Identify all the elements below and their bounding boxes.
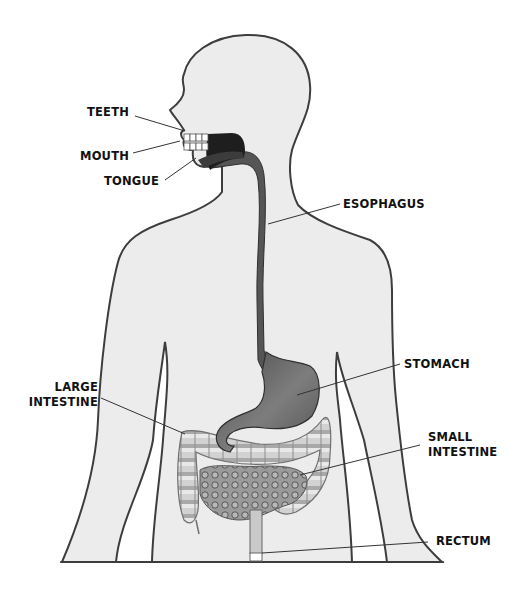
label-small-intestine-line2: INTESTINE (428, 445, 497, 460)
label-stomach: STOMACH (404, 357, 470, 372)
label-rectum: RECTUM (436, 534, 491, 549)
leader-mouth (133, 141, 180, 153)
anus (250, 553, 262, 561)
digestive-system-diagram (0, 0, 529, 589)
label-large-intestine-line2: INTESTINE (26, 395, 98, 410)
label-teeth: TEETH (87, 105, 129, 120)
rectum (250, 510, 262, 554)
label-small-intestine: SMALL INTESTINE (428, 430, 497, 460)
leader-tongue (165, 158, 196, 180)
label-small-intestine-line1: SMALL (428, 430, 497, 445)
label-mouth: MOUTH (80, 149, 129, 164)
label-esophagus: ESOPHAGUS (343, 197, 425, 212)
label-large-intestine-line1: LARGE (26, 380, 98, 395)
label-tongue: TONGUE (104, 174, 159, 189)
label-large-intestine: LARGE INTESTINE (26, 380, 98, 410)
